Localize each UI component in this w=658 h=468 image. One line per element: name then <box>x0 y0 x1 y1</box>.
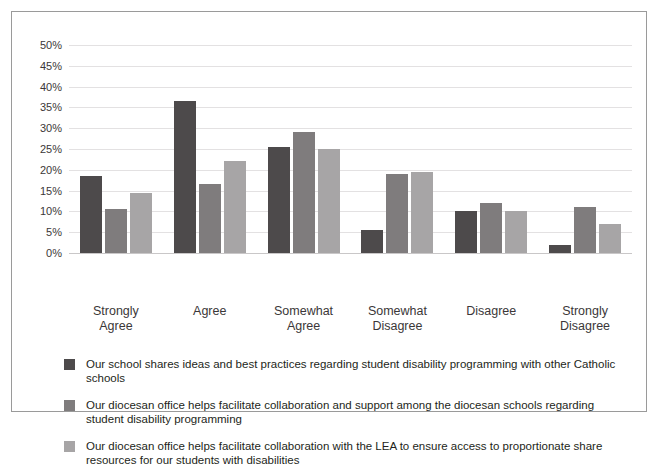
bar <box>130 193 152 253</box>
x-axis-category-label: Agree <box>163 304 257 319</box>
x-axis-category-label: Somewhat Agree <box>257 304 351 334</box>
y-axis-tick-label: 0% <box>22 247 62 259</box>
x-axis-category-label: Disagree <box>444 304 538 319</box>
y-axis-tick-label: 25% <box>22 143 62 155</box>
y-axis-tick-label: 10% <box>22 205 62 217</box>
y-axis-tick-label: 50% <box>22 39 62 51</box>
bar-group <box>538 0 632 253</box>
bar <box>293 132 315 253</box>
bar <box>386 174 408 253</box>
bar <box>174 101 196 253</box>
x-axis-category-labels: Strongly AgreeAgreeSomewhat AgreeSomewha… <box>69 304 630 340</box>
y-axis-tick-label: 30% <box>22 122 62 134</box>
bar <box>224 161 246 253</box>
bar <box>574 207 596 253</box>
bar <box>80 176 102 253</box>
x-axis-category-label: Strongly Agree <box>69 304 163 334</box>
x-axis-category-label: Strongly Disagree <box>538 304 632 334</box>
bar <box>199 184 221 253</box>
bar <box>505 211 527 253</box>
bar <box>268 147 290 253</box>
bar-group <box>351 0 445 253</box>
y-axis-tick-label: 45% <box>22 60 62 72</box>
legend-label: Our diocesan office helps facilitate col… <box>86 439 622 467</box>
bar <box>318 149 340 253</box>
bar <box>480 203 502 253</box>
bar <box>599 224 621 253</box>
legend-color-swatch <box>64 400 75 411</box>
legend-color-swatch <box>64 441 75 452</box>
plot-area: 50%45%40%35%30%25%20%15%10%5%0% <box>12 12 648 302</box>
bar <box>361 230 383 253</box>
bar-group <box>444 0 538 253</box>
chart-panel: 50%45%40%35%30%25%20%15%10%5%0% Strongly… <box>11 11 647 412</box>
legend-item[interactable]: Our school shares ideas and best practic… <box>64 357 622 385</box>
bar-group <box>163 0 257 253</box>
legend-item[interactable]: Our diocesan office helps facilitate col… <box>64 439 622 467</box>
y-axis-tick-label: 35% <box>22 101 62 113</box>
chart-legend: Our school shares ideas and best practic… <box>64 357 622 468</box>
y-axis-tick-label: 15% <box>22 185 62 197</box>
y-axis-tick-label: 5% <box>22 226 62 238</box>
legend-label: Our school shares ideas and best practic… <box>86 357 622 385</box>
bar <box>411 172 433 253</box>
y-axis-tick-label: 40% <box>22 81 62 93</box>
y-axis-tick-label: 20% <box>22 164 62 176</box>
bar-group <box>69 0 163 253</box>
legend-item[interactable]: Our diocesan office helps facilitate col… <box>64 398 622 426</box>
bar <box>455 211 477 253</box>
bar <box>549 245 571 253</box>
legend-color-swatch <box>64 359 75 370</box>
bar-groups <box>69 12 632 302</box>
bar-group <box>257 0 351 253</box>
x-axis-category-label: Somewhat Disagree <box>351 304 445 334</box>
bar <box>105 209 127 253</box>
legend-label: Our diocesan office helps facilitate col… <box>86 398 622 426</box>
